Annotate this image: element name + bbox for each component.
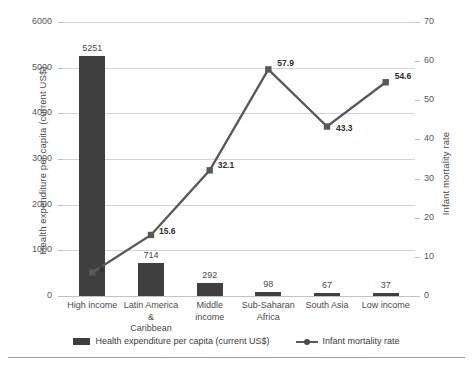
line-data-label: 32.1 <box>218 160 235 170</box>
legend-bar-swatch-icon <box>73 338 90 345</box>
line-data-label: 15.6 <box>159 226 176 236</box>
y-axis-right-tick-mark <box>415 296 420 297</box>
line-data-label: 57.9 <box>277 58 294 68</box>
y-axis-left-tick-label: 4000 <box>12 107 52 117</box>
x-axis-category-label: Middleincome <box>180 300 239 334</box>
y-axis-right-tick-mark <box>415 179 420 180</box>
line-marker <box>382 79 388 85</box>
y-axis-left-tick-mark <box>58 250 63 251</box>
line-marker <box>89 269 95 275</box>
y-axis-left-tick-mark <box>58 68 63 69</box>
y-axis-left-tick-label: 1000 <box>12 244 52 254</box>
y-axis-right-tick-mark <box>415 22 420 23</box>
line-data-label: 6 <box>99 264 104 274</box>
combo-chart: Health expenditure per capita (current U… <box>0 0 473 371</box>
y-axis-right-tick-label: 0 <box>424 290 464 300</box>
y-axis-right-tick-mark <box>415 100 420 101</box>
y-axis-right-tick-label: 10 <box>424 251 464 261</box>
y-axis-left-tick-label: 3000 <box>12 153 52 163</box>
y-axis-left-tick-mark <box>58 159 63 160</box>
legend-label-infant-mortality: Infant mortality rate <box>323 336 400 346</box>
line-data-label: 43.3 <box>336 123 353 133</box>
line-path <box>92 69 385 272</box>
y-axis-left-tick-mark <box>58 296 63 297</box>
y-axis-left-tick-label: 6000 <box>12 16 52 26</box>
y-axis-right-tick-mark <box>415 218 420 219</box>
legend-label-health-expenditure: Health expenditure per capita (current U… <box>95 336 269 346</box>
line-data-label: 54.6 <box>395 71 412 81</box>
y-axis-left-tick-mark <box>58 22 63 23</box>
x-axis-category-label: Sub-SaharanAfrica <box>239 300 298 334</box>
line-marker <box>324 123 330 129</box>
y-axis-right-tick-label: 70 <box>424 16 464 26</box>
y-axis-right-tick-mark <box>415 61 420 62</box>
y-axis-left-tick-mark <box>58 113 63 114</box>
y-axis-right-tick-label: 60 <box>424 55 464 65</box>
legend-line-swatch-icon <box>296 338 318 345</box>
line-marker <box>265 66 271 72</box>
x-axis-category-label: Latin America &Caribbean <box>122 300 181 334</box>
legend-item-health-expenditure[interactable]: Health expenditure per capita (current U… <box>73 336 269 346</box>
y-axis-right-tick-label: 50 <box>424 94 464 104</box>
line-series <box>63 22 415 296</box>
x-axis-category-label: Low income <box>356 300 415 334</box>
y-axis-right-tick-label: 30 <box>424 173 464 183</box>
legend-item-infant-mortality[interactable]: Infant mortality rate <box>296 336 400 346</box>
y-axis-right-tick-mark <box>415 139 420 140</box>
y-axis-left-tick-label: 0 <box>12 290 52 300</box>
y-axis-right-tick-mark <box>415 257 420 258</box>
chart-legend: Health expenditure per capita (current U… <box>0 336 473 346</box>
x-axis-categories: High incomeLatin America &CaribbeanMiddl… <box>63 300 415 334</box>
x-axis-category-label: High income <box>63 300 122 334</box>
plot-area: 5251714292986737 615.632.157.943.354.6 <box>63 22 415 296</box>
y-axis-left-tick-label: 5000 <box>12 62 52 72</box>
y-axis-right-tick-label: 20 <box>424 212 464 222</box>
y-axis-right-tick-label: 40 <box>424 133 464 143</box>
y-axis-left-tick-label: 2000 <box>12 199 52 209</box>
y-axis-left-tick-mark <box>58 205 63 206</box>
line-marker <box>148 232 154 238</box>
bottom-divider <box>8 357 465 358</box>
line-marker <box>206 167 212 173</box>
x-axis-category-label: South Asia <box>298 300 357 334</box>
gridline <box>63 296 415 297</box>
